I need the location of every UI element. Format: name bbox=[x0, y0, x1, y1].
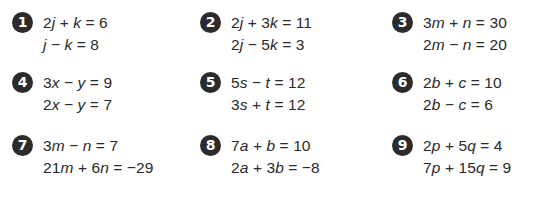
equation-line: 3s + t = 12 bbox=[231, 96, 305, 114]
variable: k bbox=[73, 14, 81, 31]
equation-line: 2j + k = 6 bbox=[43, 14, 108, 32]
variable: j bbox=[43, 36, 47, 53]
equation-line: 3m + n = 30 bbox=[423, 14, 507, 32]
equation-line: 2a + 3b = −8 bbox=[231, 159, 320, 177]
equation-line: 2b − c = 6 bbox=[423, 96, 493, 114]
problem-number-badge: 4 bbox=[12, 72, 33, 93]
problem-number-badge: 2 bbox=[200, 12, 221, 33]
variable: n bbox=[83, 137, 92, 154]
variable: b bbox=[275, 159, 284, 176]
variable: y bbox=[78, 96, 86, 113]
variable: n bbox=[100, 159, 109, 176]
problem-number-badge: 6 bbox=[392, 72, 413, 93]
variable: p bbox=[432, 137, 441, 154]
variable: c bbox=[458, 74, 466, 91]
equation-line: 3x − y = 9 bbox=[43, 74, 112, 92]
problem-number-badge: 5 bbox=[200, 72, 221, 93]
problem-number-badge: 8 bbox=[200, 135, 221, 156]
variable: a bbox=[240, 159, 249, 176]
variable: p bbox=[432, 159, 441, 176]
problem-number-badge: 9 bbox=[392, 135, 413, 156]
variable: k bbox=[270, 14, 278, 31]
variable: n bbox=[463, 14, 472, 31]
variable: a bbox=[240, 137, 249, 154]
variable: b bbox=[432, 74, 441, 91]
variable: j bbox=[240, 14, 244, 31]
variable: s bbox=[240, 74, 248, 91]
problem-number-badge: 7 bbox=[12, 135, 33, 156]
variable: n bbox=[463, 36, 472, 53]
variable: k bbox=[65, 36, 73, 53]
variable: m bbox=[432, 14, 445, 31]
variable: m bbox=[52, 137, 65, 154]
problem-number-badge: 3 bbox=[392, 12, 413, 33]
variable: m bbox=[60, 159, 73, 176]
equation-line: 2j − 5k = 3 bbox=[231, 36, 305, 54]
equation-line: 2b + c = 10 bbox=[423, 74, 502, 92]
variable: x bbox=[52, 96, 60, 113]
equation-line: 2m − n = 20 bbox=[423, 36, 507, 54]
variable: c bbox=[458, 96, 466, 113]
variable: s bbox=[240, 96, 248, 113]
equation-line: 7a + b = 10 bbox=[231, 137, 311, 155]
variable: y bbox=[78, 74, 86, 91]
equation-line: 21m + 6n = −29 bbox=[43, 159, 153, 177]
equation-line: 3m − n = 7 bbox=[43, 137, 118, 155]
variable: t bbox=[266, 74, 270, 91]
variable: x bbox=[52, 74, 60, 91]
variable: q bbox=[467, 137, 476, 154]
equation-line: 2p + 5q = 4 bbox=[423, 137, 503, 155]
variable: b bbox=[266, 137, 275, 154]
variable: q bbox=[476, 159, 485, 176]
variable: b bbox=[432, 96, 441, 113]
problem-number-badge: 1 bbox=[12, 12, 33, 33]
variable: t bbox=[266, 96, 270, 113]
equation-line: 2j + 3k = 11 bbox=[231, 14, 312, 32]
variable: k bbox=[270, 36, 278, 53]
variable: j bbox=[52, 14, 56, 31]
equation-line: 5s − t = 12 bbox=[231, 74, 305, 92]
equation-line: 7p + 15q = 9 bbox=[423, 159, 511, 177]
equation-line: j − k = 8 bbox=[43, 36, 99, 54]
variable: m bbox=[432, 36, 445, 53]
variable: j bbox=[240, 36, 244, 53]
equation-line: 2x − y = 7 bbox=[43, 96, 112, 114]
